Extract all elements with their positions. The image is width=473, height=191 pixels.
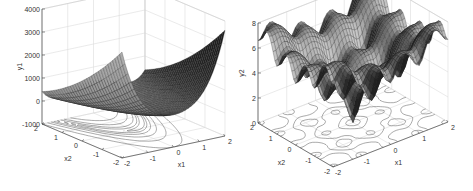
z-tick-label: 6	[252, 45, 256, 52]
surface-mesh	[42, 30, 225, 116]
x1-tick-label: 1	[202, 144, 206, 151]
z-tick-label: 0	[36, 98, 40, 105]
x1-tick-label: 2	[228, 138, 232, 145]
z-axis-label: y2	[238, 69, 246, 77]
x2-tick-label: 2	[250, 124, 254, 131]
x1-axis-label: x1	[178, 161, 186, 168]
x1-tick-label: 1	[422, 135, 426, 142]
x2-tick-label: -2	[324, 168, 330, 175]
x2-axis-label: x2	[64, 155, 72, 162]
x2-tick-label: -2	[113, 159, 119, 166]
surface-plot-y1-canvas: -100001000200030004000-2-1012-2-1012y1x2…	[0, 0, 236, 191]
x2-tick-label: -1	[93, 151, 99, 158]
x1-tick-label: -2	[124, 160, 130, 167]
z-tick-label: 8	[252, 20, 256, 27]
x2-tick-label: -1	[305, 157, 311, 164]
z-tick-label: 2000	[24, 52, 40, 59]
x1-tick-label: -2	[335, 169, 341, 176]
x2-tick-label: 1	[269, 135, 273, 142]
x1-tick-label: -1	[150, 155, 156, 162]
z-tick-label: 4	[252, 70, 256, 77]
z-tick-label: 3000	[24, 29, 40, 36]
x2-axis-label: x2	[278, 159, 286, 166]
z-axis-label: y1	[16, 63, 24, 71]
x2-tick-label: 0	[74, 142, 78, 149]
surface-plot-y2-canvas: 02468-2-1012-2-1012y2x2x1	[236, 0, 473, 191]
surface-plot-y2: 02468-2-1012-2-1012y2x2x1	[236, 0, 473, 191]
surface-plot-y1: -100001000200030004000-2-1012-2-1012y1x2…	[0, 0, 236, 191]
x2-tick-label: 2	[34, 125, 38, 132]
x1-axis-label: x1	[395, 159, 403, 166]
x1-tick-label: 0	[394, 147, 398, 154]
x1-tick-label: 0	[177, 149, 181, 156]
z-tick-label: 1000	[24, 75, 40, 82]
z-tick-label: 2	[252, 95, 256, 102]
x1-tick-label: -1	[364, 158, 370, 165]
x2-tick-label: 0	[288, 146, 292, 153]
x2-tick-label: 1	[54, 134, 58, 141]
z-tick-label: 4000	[24, 6, 40, 13]
x1-tick-label: 2	[451, 124, 455, 131]
